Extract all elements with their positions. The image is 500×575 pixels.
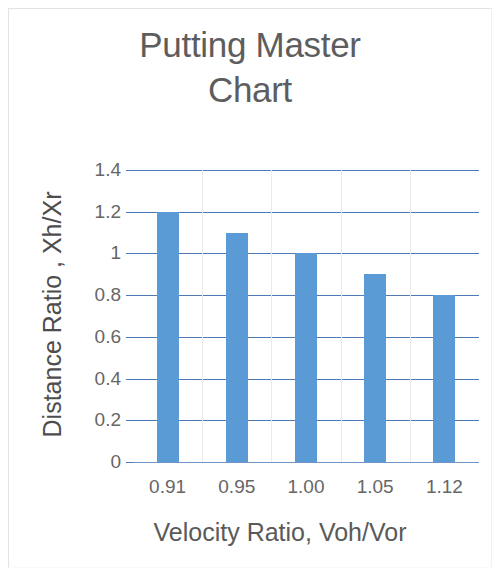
x-axis-tick-label: 0.91: [149, 476, 186, 498]
plot-area: 00.20.40.60.811.21.4 0.910.951.001.051.1…: [133, 170, 479, 462]
chart-title: Putting Master Chart: [60, 22, 440, 112]
y-axis-tick-label: 0: [110, 451, 121, 473]
y-axis-tick-label: 0.2: [95, 409, 121, 431]
bars: [133, 170, 479, 462]
bar-slot: [341, 170, 410, 462]
x-axis-title: Velocity Ratio, Voh/Vor: [70, 518, 490, 547]
y-axis-tick: [126, 379, 133, 380]
y-axis-tick-label: 1.4: [95, 159, 121, 181]
y-axis-tick: [126, 420, 133, 421]
chart-figure: Putting Master Chart Distance Ratio , Xh…: [0, 0, 500, 575]
bar[interactable]: [226, 233, 248, 462]
y-axis-title: Distance Ratio , Xh/Xr: [38, 155, 67, 475]
bar-slot: [202, 170, 271, 462]
x-axis-tick-label: 0.95: [218, 476, 255, 498]
y-axis-tick-label: 1.2: [95, 201, 121, 223]
y-axis-tick: [126, 337, 133, 338]
x-axis-tick-label: 1.12: [426, 476, 463, 498]
y-axis-tick-label: 1: [110, 242, 121, 264]
bar-slot: [133, 170, 202, 462]
bar-slot: [271, 170, 340, 462]
y-axis-tick: [126, 295, 133, 296]
y-axis-tick-label: 0.6: [95, 326, 121, 348]
gridline: [133, 462, 479, 463]
y-axis-tick: [126, 253, 133, 254]
y-axis-tick: [126, 212, 133, 213]
bar-slot: [410, 170, 479, 462]
x-axis-tick-label: 1.00: [288, 476, 325, 498]
y-axis-tick-label: 0.8: [95, 284, 121, 306]
bar[interactable]: [157, 212, 179, 462]
y-axis-tick: [126, 170, 133, 171]
bar[interactable]: [364, 274, 386, 462]
y-axis-tick-label: 0.4: [95, 368, 121, 390]
bar[interactable]: [433, 295, 455, 462]
y-axis-tick: [126, 462, 133, 463]
x-axis-tick-label: 1.05: [357, 476, 394, 498]
bar[interactable]: [295, 253, 317, 462]
